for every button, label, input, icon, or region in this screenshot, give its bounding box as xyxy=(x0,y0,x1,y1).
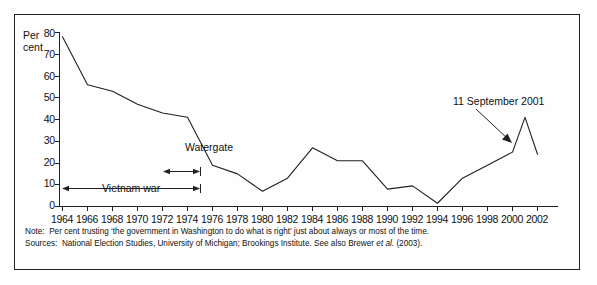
footnote-sources-row: Sources: National Election Studies, Univ… xyxy=(25,238,573,250)
footnote-note-tag: Note: xyxy=(25,226,45,238)
footnote-sources-text-italic: et al. xyxy=(376,239,394,248)
footnote-note-row: Note: Per cent trusting ‘the government … xyxy=(25,226,573,238)
y-axis-ticks xyxy=(55,33,60,207)
footnotes-block: Note: Per cent trusting ‘the government … xyxy=(25,226,573,249)
arrow-head-right xyxy=(193,169,200,174)
arrow-head-left xyxy=(163,169,170,174)
footnote-sources-text-part1: National Election Studies, University of… xyxy=(62,239,376,248)
trust-line-series xyxy=(63,37,538,203)
footnote-sources-tag: Sources: xyxy=(25,238,57,250)
footnote-sources-text-part2: (2003). xyxy=(394,239,422,248)
sept11-arrow xyxy=(476,109,512,143)
footnote-note-text: Per cent trusting ‘the government in Was… xyxy=(49,227,429,236)
figure-frame: Per cent 80 70 60 50 40 30 20 10 0 1964 … xyxy=(14,14,580,270)
watergate-bracket xyxy=(163,167,201,176)
arrow-head-right xyxy=(193,186,200,191)
vietnam-war-bracket xyxy=(62,184,201,193)
arrow-head-left xyxy=(62,186,69,191)
axis-lines xyxy=(60,32,559,207)
x-axis-ticks xyxy=(63,207,538,212)
